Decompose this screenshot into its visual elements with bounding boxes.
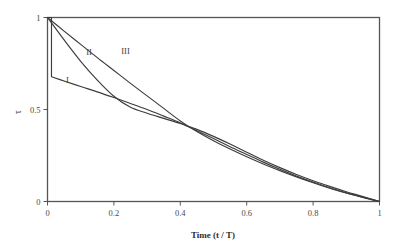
chart-container: 00.20.40.60.81 00.51 IIIIII Time (t / T)…: [0, 0, 398, 248]
curve-ii: [48, 18, 380, 202]
x-tick-label: 0.2: [109, 208, 120, 218]
curve-label-ii: II: [86, 47, 92, 57]
curve-label-i: I: [66, 75, 69, 85]
y-axis-title: τ: [13, 110, 23, 114]
curve-i: [48, 18, 380, 202]
plot-frame: [48, 18, 380, 202]
y-axis-tick-labels: 00.51: [30, 13, 41, 207]
x-tick-label: 0.4: [175, 208, 186, 218]
y-tick-label: 0: [36, 197, 40, 207]
y-tick-label: 0.5: [30, 105, 41, 115]
curve-label-iii: III: [121, 46, 130, 56]
x-tick-label: 0.6: [241, 208, 252, 218]
y-tick-label: 1: [36, 13, 40, 23]
x-tick-label: 0.8: [308, 208, 319, 218]
chart-canvas: 00.20.40.60.81 00.51 IIIIII Time (t / T)…: [0, 0, 398, 248]
x-axis-tick-labels: 00.20.40.60.81: [45, 208, 381, 218]
curve-annotations: IIIIII: [66, 46, 130, 85]
curve-iii: [48, 18, 380, 202]
x-tick-label: 0: [45, 208, 49, 218]
data-series-group: [48, 18, 380, 202]
x-tick-label: 1: [377, 208, 381, 218]
x-axis-title: Time (t / T): [191, 230, 235, 240]
